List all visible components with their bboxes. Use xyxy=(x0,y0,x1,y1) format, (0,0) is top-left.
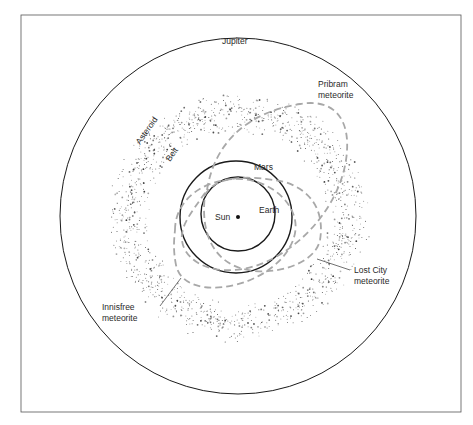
asteroid-dot xyxy=(233,103,234,104)
asteroid-dot xyxy=(278,324,279,325)
asteroid-dot xyxy=(177,130,178,131)
asteroid-dot xyxy=(215,318,216,319)
asteroid-dot xyxy=(341,258,342,259)
asteroid-dot xyxy=(152,140,154,142)
asteroid-dot xyxy=(184,134,185,135)
asteroid-dot xyxy=(213,317,214,318)
asteroid-dot xyxy=(274,111,275,112)
asteroid-dot xyxy=(172,127,174,129)
asteroid-dot xyxy=(320,170,321,171)
asteroid-dot xyxy=(137,211,138,212)
asteroid-dot xyxy=(311,160,312,161)
asteroid-dot xyxy=(300,116,302,118)
asteroid-dot xyxy=(176,115,177,116)
asteroid-dot xyxy=(165,140,166,141)
asteroid-dot xyxy=(156,139,157,140)
asteroid-dot xyxy=(159,277,160,278)
asteroid-dot xyxy=(185,130,186,131)
asteroid-dot xyxy=(198,118,199,119)
asteroid-dot xyxy=(231,321,232,322)
asteroid-dot xyxy=(252,332,253,333)
asteroid-dot xyxy=(278,323,279,324)
asteroid-dot xyxy=(285,112,286,113)
asteroid-dot xyxy=(347,243,348,244)
asteroid-dot xyxy=(292,302,293,303)
asteroid-dot xyxy=(310,272,311,273)
asteroid-dot xyxy=(333,281,334,282)
asteroid-dot xyxy=(248,313,249,314)
asteroid-dot xyxy=(134,212,136,214)
asteroid-dot xyxy=(291,130,292,131)
asteroid-dot xyxy=(131,207,132,208)
asteroid-dot xyxy=(302,117,303,118)
asteroid-dot xyxy=(206,100,207,101)
asteroid-dot xyxy=(350,241,351,242)
asteroid-dot xyxy=(193,122,194,123)
asteroid-dot xyxy=(277,115,278,116)
asteroid-dot xyxy=(177,292,178,293)
asteroid-dot xyxy=(255,113,256,114)
asteroid-dot xyxy=(302,306,303,307)
asteroid-dot xyxy=(322,267,324,269)
asteroid-dot xyxy=(326,287,327,288)
asteroid-dot xyxy=(204,311,205,312)
asteroid-dot xyxy=(330,288,331,289)
asteroid-dot xyxy=(285,125,286,126)
asteroid-dot xyxy=(255,114,257,116)
asteroid-dot xyxy=(162,126,163,127)
asteroid-dot xyxy=(159,141,160,142)
asteroid-dot xyxy=(140,218,141,219)
asteroid-dot xyxy=(158,142,159,143)
asteroid-dot xyxy=(344,175,345,176)
asteroid-dot xyxy=(130,175,131,176)
asteroid-dot xyxy=(123,230,124,231)
asteroid-dot xyxy=(231,336,232,337)
asteroid-dot xyxy=(153,155,154,156)
asteroid-dot xyxy=(148,161,149,162)
asteroid-dot xyxy=(132,215,134,217)
asteroid-dot xyxy=(146,162,147,163)
asteroid-dot xyxy=(327,238,328,239)
asteroid-dot xyxy=(171,309,172,310)
asteroid-dot xyxy=(189,128,190,129)
asteroid-dot xyxy=(323,282,324,283)
asteroid-dot xyxy=(323,304,324,305)
asteroid-dot xyxy=(138,253,139,254)
asteroid-dot xyxy=(334,245,336,247)
asteroid-dot xyxy=(239,99,240,100)
asteroid-dot xyxy=(174,131,175,132)
asteroid-dot xyxy=(200,129,202,131)
asteroid-dot xyxy=(136,255,137,256)
asteroid-dot xyxy=(147,197,148,198)
asteroid-dot xyxy=(181,122,183,124)
asteroid-dot xyxy=(309,288,311,290)
asteroid-dot xyxy=(198,117,199,118)
asteroid-dot xyxy=(181,310,182,311)
asteroid-dot xyxy=(359,187,360,188)
asteroid-dot xyxy=(187,139,188,140)
asteroid-dot xyxy=(255,317,256,318)
asteroid-dot xyxy=(186,324,187,325)
asteroid-dot xyxy=(313,299,314,300)
asteroid-dot xyxy=(129,219,131,221)
asteroid-dot xyxy=(301,121,303,123)
asteroid-dot xyxy=(255,107,257,109)
asteroid-dot xyxy=(124,159,125,160)
asteroid-dot xyxy=(296,112,297,113)
asteroid-dot xyxy=(161,161,162,162)
asteroid-dot xyxy=(336,180,337,181)
asteroid-dot xyxy=(218,316,219,317)
asteroid-dot xyxy=(221,327,223,329)
asteroid-dot xyxy=(247,322,249,324)
asteroid-dot xyxy=(287,316,288,317)
asteroid-dot xyxy=(344,242,346,244)
asteroid-dot xyxy=(348,244,349,245)
asteroid-dot xyxy=(134,253,135,254)
asteroid-dot xyxy=(252,329,253,330)
asteroid-dot xyxy=(131,189,133,191)
asteroid-dot xyxy=(160,263,161,264)
asteroid-dot xyxy=(301,297,302,298)
asteroid-dot xyxy=(189,114,190,115)
asteroid-dot xyxy=(185,315,186,316)
asteroid-dot xyxy=(158,136,159,137)
